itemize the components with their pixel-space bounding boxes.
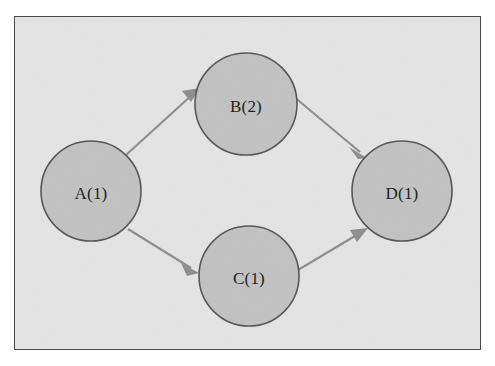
node-d[interactable]: D(1) (352, 141, 452, 241)
edge-a-to-c-line (128, 229, 191, 268)
edge-c-to-d-arrowhead (350, 228, 368, 242)
edge-a-to-b (126, 88, 200, 155)
edge-b-to-d-line (293, 96, 360, 152)
node-b[interactable]: B(2) (195, 53, 297, 155)
figure-root: A(1) B(2) C(1) D(1) (0, 0, 495, 366)
node-group: A(1) B(2) C(1) D(1) (41, 53, 452, 326)
node-b-label: B(2) (230, 97, 262, 116)
node-c[interactable]: C(1) (199, 226, 299, 326)
node-a-label: A(1) (75, 184, 108, 203)
edge-a-to-b-line (126, 94, 193, 155)
node-c-label: C(1) (233, 269, 265, 288)
edge-b-to-d (293, 96, 367, 159)
edge-c-to-d (298, 228, 368, 270)
graph-frame: A(1) B(2) C(1) D(1) (14, 16, 481, 350)
node-a[interactable]: A(1) (41, 141, 141, 241)
edge-a-to-c (128, 229, 199, 276)
edge-a-to-c-arrowhead (181, 263, 199, 276)
node-d-label: D(1) (386, 184, 419, 203)
graph-canvas: A(1) B(2) C(1) D(1) (15, 17, 480, 349)
edge-c-to-d-line (298, 233, 360, 270)
